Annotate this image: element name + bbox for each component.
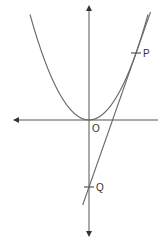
parabola-tangent-diagram: O P Q: [0, 0, 158, 241]
tangent-line: [83, 12, 151, 205]
label-point-p: P: [143, 48, 150, 59]
label-point-q: Q: [96, 182, 104, 193]
label-origin: O: [92, 123, 100, 134]
